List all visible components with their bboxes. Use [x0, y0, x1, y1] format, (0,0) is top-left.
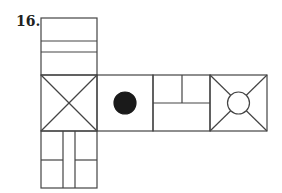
face-circle	[210, 75, 267, 131]
face-top	[41, 18, 97, 75]
face-bottom	[41, 131, 97, 188]
face-dot	[97, 75, 153, 131]
face-x	[41, 75, 97, 131]
cube-net-diagram	[0, 0, 282, 193]
face-split	[153, 75, 210, 131]
open-circle-icon	[228, 92, 250, 114]
black-dot-icon	[114, 92, 136, 114]
